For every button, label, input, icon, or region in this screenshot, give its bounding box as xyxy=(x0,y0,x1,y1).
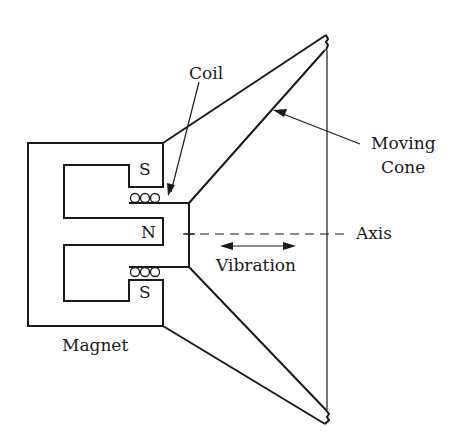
frame-bottom xyxy=(163,326,325,424)
cone-edge-top xyxy=(326,35,328,50)
magnet-label: Magnet xyxy=(62,337,128,354)
moving-cone-label-line2: Cone xyxy=(381,159,425,176)
cone-leader xyxy=(278,112,360,144)
cone-arrowhead xyxy=(273,109,287,117)
axis-label: Axis xyxy=(356,225,392,242)
coil-windings-top xyxy=(131,194,160,203)
moving-cone-label-line1: Moving xyxy=(371,135,436,152)
cone-bottom xyxy=(189,267,326,410)
pole-label-bottom-s: S xyxy=(139,284,151,301)
vibration-arrowhead-left xyxy=(220,242,233,250)
speaker-diagram xyxy=(0,0,459,440)
pole-label-top-s: S xyxy=(139,161,151,178)
coil-arrowhead xyxy=(167,183,175,196)
vibration-label: Vibration xyxy=(216,257,296,274)
coil-windings-bottom xyxy=(131,268,160,277)
coil-label: Coil xyxy=(189,65,223,82)
vibration-arrowhead-right xyxy=(283,242,296,250)
coil-leader xyxy=(171,82,199,192)
cone-edge-bottom xyxy=(325,410,329,424)
pole-label-center-n: N xyxy=(141,224,156,241)
